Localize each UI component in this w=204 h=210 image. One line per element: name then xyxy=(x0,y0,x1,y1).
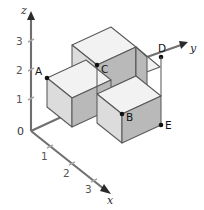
point-B-dot xyxy=(120,112,125,117)
x-axis-arrowhead xyxy=(100,184,111,194)
x-axis: 1 2 3 x xyxy=(31,131,114,207)
origin-label: 0 xyxy=(17,125,24,138)
point-D-label: D xyxy=(158,42,166,54)
point-C-label: C xyxy=(101,63,108,75)
z-axis: 1 2 3 z xyxy=(16,4,35,131)
point-C-dot xyxy=(95,63,100,68)
point-E-dot xyxy=(159,123,164,128)
y-axis-label: y xyxy=(189,42,197,55)
z-axis-label: z xyxy=(20,4,27,17)
point-D: D xyxy=(158,42,166,59)
cube-coordinate-diagram: 1 2 3 z 0 1 y 1 2 3 x xyxy=(0,0,204,210)
z-tick-label-2: 2 xyxy=(16,64,23,76)
point-A-label: A xyxy=(35,65,43,77)
point-A: A xyxy=(35,65,49,80)
x-axis-label: x xyxy=(107,194,114,207)
x-tick-label-1: 1 xyxy=(41,150,48,162)
z-tick-label-3: 3 xyxy=(16,35,23,47)
point-A-dot xyxy=(45,76,50,81)
z-tick-label-1: 1 xyxy=(16,93,23,105)
z-axis-arrowhead xyxy=(27,11,35,20)
x-tick-label-3: 3 xyxy=(85,183,92,195)
x-tick-label-2: 2 xyxy=(63,167,70,179)
point-E-label: E xyxy=(165,119,172,131)
y-axis-arrowhead xyxy=(179,41,188,49)
point-B-label: B xyxy=(126,111,133,123)
